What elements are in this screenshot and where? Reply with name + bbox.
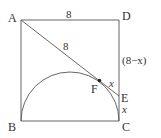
label-B: B	[8, 120, 16, 134]
semicircle-BC	[21, 72, 119, 121]
label-D: D	[122, 9, 131, 23]
length-AD: 8	[66, 8, 72, 20]
label-A: A	[8, 11, 17, 25]
length-FE: x	[108, 77, 114, 89]
point-F-dot	[98, 79, 102, 83]
geometry-figure: A D B C E F 8 8 (8−x) x x	[0, 0, 161, 138]
length-EC: x	[121, 103, 127, 115]
label-C: C	[122, 120, 130, 134]
length-AF: 8	[63, 40, 69, 52]
tangent-AE	[21, 20, 119, 96]
length-DE: (8−x)	[122, 54, 147, 67]
label-F: F	[91, 82, 98, 96]
diagram-canvas: A D B C E F 8 8 (8−x) x x	[0, 0, 161, 138]
